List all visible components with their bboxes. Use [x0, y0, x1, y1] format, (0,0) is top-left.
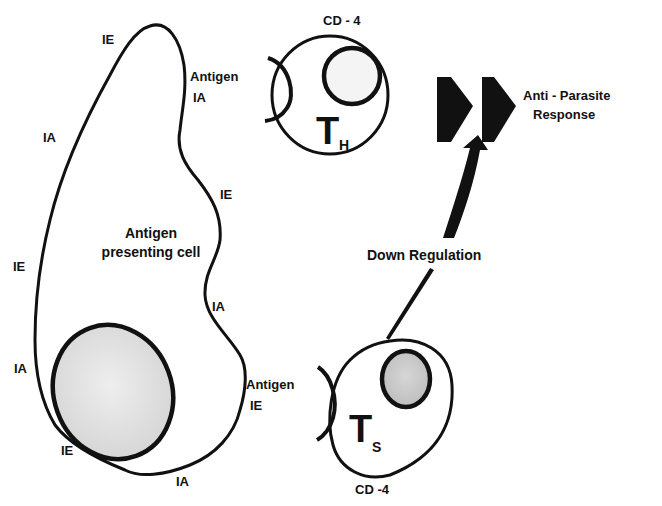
apc-surface-label-ia-left: IA — [43, 131, 56, 144]
arrow-block-1 — [437, 77, 473, 142]
antigen-ie-label-line1: Antigen — [246, 378, 294, 391]
apc-surface-label-ie-bottom: IE — [61, 444, 73, 457]
apc-surface-label-ia-lower-left: IA — [14, 362, 27, 375]
response-label-line2: Response — [533, 108, 595, 121]
apc-surface-label-ia-right: IA — [212, 300, 225, 313]
apc-title-line1: Antigen — [96, 226, 206, 240]
antigen-ie-label-line2: IE — [250, 399, 262, 412]
response-label-line1: Anti - Parasite — [523, 89, 610, 102]
antigen-ia-label-line1: Antigen — [190, 70, 238, 83]
apc-title-line2: presenting cell — [80, 245, 222, 259]
apc-surface-label-ie-top: IE — [102, 33, 114, 46]
apc-surface-label-ie-right: IE — [220, 188, 232, 201]
helper-t-letter: T — [316, 112, 339, 150]
down-regulation-label: Down Regulation — [367, 248, 481, 262]
antigen-ia-label-line2: IA — [193, 91, 206, 104]
arrow-block-2 — [482, 77, 516, 142]
helper-t-cell-nucleus — [324, 48, 380, 104]
down-regulation-arrow-lower — [386, 268, 434, 340]
suppressor-t-cell-nucleus — [382, 351, 430, 407]
apc-surface-label-ie-left: IE — [13, 260, 25, 273]
apc-nucleus — [34, 308, 191, 476]
suppressor-t-marker-label: CD -4 — [355, 483, 389, 496]
suppressor-t-subscript: S — [372, 440, 381, 454]
diagram-canvas: Antigen presenting cell IE IA IE IE IA I… — [0, 0, 662, 506]
helper-t-subscript: H — [339, 138, 349, 152]
down-regulation-arrow-upper — [443, 135, 488, 238]
apc-surface-label-ia-bottom: IA — [176, 475, 189, 488]
helper-t-marker-label: CD - 4 — [323, 14, 361, 27]
suppressor-t-letter: T — [349, 410, 372, 448]
